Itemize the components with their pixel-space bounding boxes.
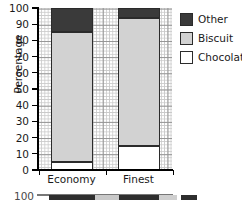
cropped-chart-bar — [49, 195, 95, 200]
y-tick-label: 60 — [16, 68, 29, 79]
y-tick: 10 — [32, 153, 37, 154]
y-tick: 80 — [32, 40, 37, 41]
legend-item-chocolate[interactable]: Chocolate — [180, 48, 242, 67]
chart-figure: Percentage 0102030405060708090100 Econom… — [0, 0, 242, 200]
y-tick-label: 20 — [16, 132, 29, 143]
legend-label-biscuit: Biscuit — [198, 33, 233, 44]
bar-economy[interactable] — [51, 8, 93, 170]
y-tick: 50 — [32, 88, 37, 89]
legend-label-other: Other — [198, 14, 228, 25]
y-tick: 100 — [32, 7, 37, 8]
y-tick-label: 30 — [16, 116, 29, 127]
y-tick-label: 10 — [16, 149, 29, 160]
legend-item-biscuit[interactable]: Biscuit — [180, 29, 242, 48]
bar-segment-chocolate[interactable] — [118, 146, 160, 170]
legend-swatch-chocolate — [180, 51, 193, 64]
cropped-chart-bar — [95, 195, 119, 200]
cropped-chart-bar — [159, 195, 177, 200]
bar-finest[interactable] — [118, 8, 160, 170]
y-tick: 90 — [32, 24, 37, 25]
y-tick: 30 — [32, 121, 37, 122]
y-tick-label: 0 — [22, 165, 29, 176]
y-tick: 40 — [32, 105, 37, 106]
cropped-chart-bar — [181, 195, 197, 200]
y-axis-line — [37, 7, 39, 171]
bar-segment-biscuit[interactable] — [118, 18, 160, 146]
x-axis-label-finest: Finest — [99, 173, 179, 185]
y-tick-label: 80 — [16, 35, 29, 46]
plot-area — [38, 8, 172, 170]
y-tick-label: 70 — [16, 51, 29, 62]
legend-label-chocolate: Chocolate — [198, 52, 242, 63]
y-tick-label: 40 — [16, 100, 29, 111]
legend-item-other[interactable]: Other — [180, 10, 242, 29]
cropped-chart-tick-label: 100 — [14, 190, 34, 200]
y-tick-label: 50 — [16, 84, 29, 95]
legend: Other Biscuit Chocolate — [180, 10, 242, 67]
cropped-chart-bar — [119, 195, 159, 200]
bar-segment-other[interactable] — [51, 8, 93, 32]
bar-segment-other[interactable] — [118, 8, 160, 18]
y-tick-label: 90 — [16, 19, 29, 30]
legend-swatch-other — [180, 13, 193, 26]
y-tick: 70 — [32, 56, 37, 57]
x-tick — [173, 170, 174, 175]
legend-swatch-biscuit — [180, 32, 193, 45]
y-tick-label: 100 — [9, 3, 29, 14]
y-tick: 60 — [32, 72, 37, 73]
cropped-chart-below: 100 — [0, 189, 242, 200]
y-tick: 20 — [32, 137, 37, 138]
y-tick: 0 — [32, 169, 37, 170]
bar-segment-biscuit[interactable] — [51, 32, 93, 162]
